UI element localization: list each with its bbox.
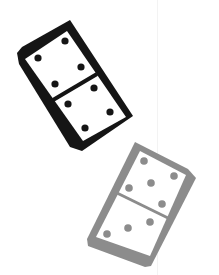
gray-domino-icon	[87, 142, 196, 267]
black-domino-icon	[17, 20, 133, 151]
domino-illustration: Two dominoes	[0, 0, 219, 275]
